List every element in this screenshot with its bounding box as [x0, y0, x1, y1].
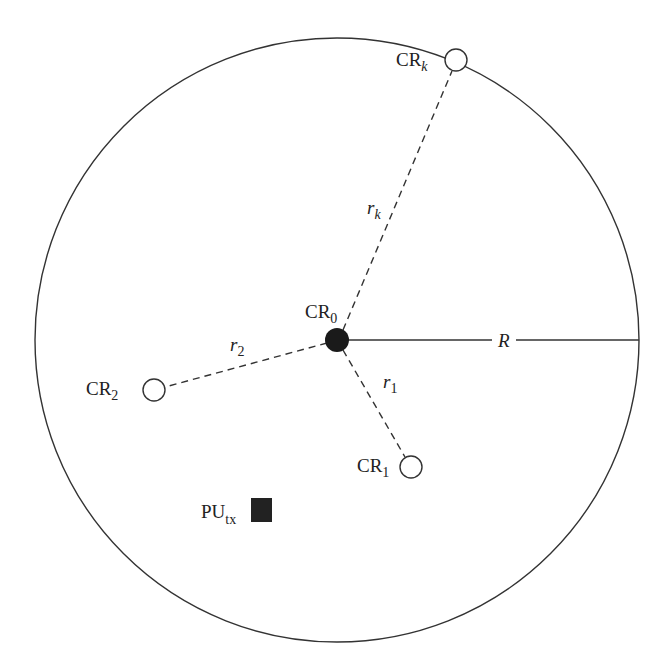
primary-user-transmitter [251, 498, 272, 522]
link-label-r1: r1 [383, 371, 397, 396]
crk-label: CRk [396, 49, 428, 74]
crk-node [445, 49, 467, 71]
cr2-label: CR2 [86, 378, 118, 403]
link-label-r2: r2 [230, 334, 244, 359]
cr0-label: CR0 [305, 301, 337, 326]
pu-label: PUtx [201, 501, 236, 527]
link-cr0-cr1 [343, 350, 405, 457]
link-label-rk: rk [367, 197, 381, 222]
radius-label: R [497, 330, 510, 351]
network-diagram: R rk r2 r1 CR0 CRk CR2 CR1 PUtx [0, 0, 664, 670]
cr2-node [143, 379, 165, 401]
cr1-label: CR1 [357, 455, 389, 480]
cr0-node [325, 328, 349, 352]
link-cr0-crk [343, 71, 452, 330]
cr1-node [400, 456, 422, 478]
link-cr0-cr2 [165, 343, 327, 387]
